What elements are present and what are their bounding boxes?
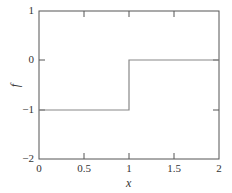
y-tick-label: 0 xyxy=(14,54,34,65)
y-tick-label: −1 xyxy=(14,104,34,115)
x-tick-label: 1.5 xyxy=(162,163,186,174)
y-tick-label: 1 xyxy=(14,5,34,16)
x-axis-title: x xyxy=(126,176,131,191)
x-tick-label: 0 xyxy=(27,163,51,174)
x-tick-label: 2 xyxy=(207,163,231,174)
series-line-f xyxy=(39,60,219,110)
x-tick-label: 1 xyxy=(117,163,141,174)
y-axis-title: f xyxy=(8,84,23,87)
x-tick-label: 0.5 xyxy=(72,163,96,174)
